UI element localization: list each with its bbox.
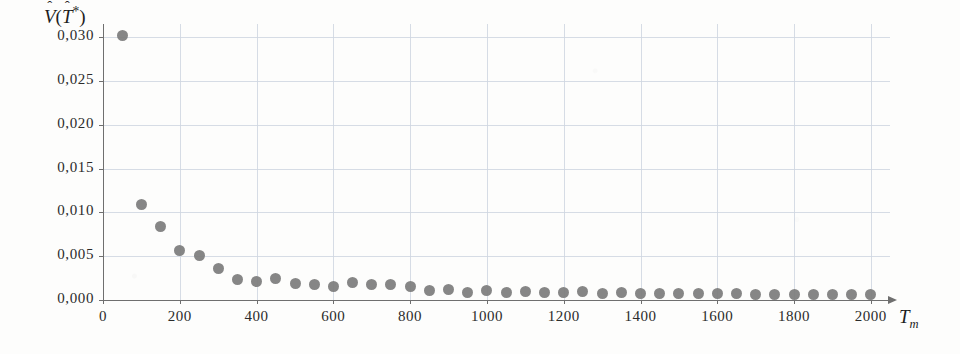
y-axis-tick-mark xyxy=(99,37,104,38)
x-axis-tick-mark xyxy=(180,300,181,304)
data-point xyxy=(481,285,492,296)
data-point xyxy=(501,287,512,298)
data-point xyxy=(827,289,838,300)
x-axis-tick-label: 1200 xyxy=(548,308,580,325)
data-point xyxy=(808,289,819,300)
x-axis-tick-label: 1400 xyxy=(625,308,657,325)
data-point xyxy=(846,289,857,300)
y-axis-tick-labels: 0,0000,0050,0100,0150,0200,0250,030 xyxy=(22,0,94,354)
x-axis-title-subscript: m xyxy=(910,317,919,331)
data-point xyxy=(539,287,550,298)
x-axis-line xyxy=(103,300,893,301)
x-axis-tick-label: 1000 xyxy=(471,308,503,325)
data-point xyxy=(347,277,358,288)
data-point xyxy=(731,288,742,299)
data-point xyxy=(558,287,569,298)
data-point xyxy=(424,285,435,296)
gridline-horizontal xyxy=(103,169,890,170)
gridline-vertical xyxy=(410,24,411,300)
gridline-vertical xyxy=(717,24,718,300)
gridline-vertical xyxy=(564,24,565,300)
gridline-vertical xyxy=(871,24,872,300)
x-axis-tick-mark xyxy=(641,300,642,304)
data-point xyxy=(712,288,723,299)
y-axis-tick-mark xyxy=(99,169,104,170)
plot-area xyxy=(103,24,890,300)
data-point xyxy=(366,279,377,290)
data-point xyxy=(194,250,205,261)
data-point xyxy=(865,289,876,300)
x-axis-tick-mark xyxy=(410,300,411,304)
y-axis-tick-label: 0,025 xyxy=(57,71,94,88)
x-axis-tick-mark xyxy=(871,300,872,304)
x-axis-tick-mark xyxy=(333,300,334,304)
x-axis-tick-mark xyxy=(487,300,488,304)
x-axis-arrow-icon xyxy=(888,296,897,304)
y-axis-tick-mark xyxy=(99,81,104,82)
data-point xyxy=(309,279,320,290)
data-point xyxy=(520,286,531,297)
gridline-horizontal xyxy=(103,37,890,38)
data-point xyxy=(635,288,646,299)
data-point xyxy=(577,286,588,297)
x-axis-tick-mark xyxy=(564,300,565,304)
gridline-vertical xyxy=(487,24,488,300)
data-point xyxy=(673,288,684,299)
data-point xyxy=(443,284,454,295)
x-axis-tick-mark xyxy=(257,300,258,304)
data-point xyxy=(750,289,761,300)
data-point xyxy=(136,199,147,210)
x-axis-tick-label: 800 xyxy=(398,308,422,325)
data-point xyxy=(597,288,608,299)
y-axis-tick-label: 0,030 xyxy=(57,27,94,44)
y-axis-tick-mark xyxy=(99,125,104,126)
y-axis-line xyxy=(103,24,104,301)
y-axis-tick-label: 0,020 xyxy=(57,115,94,132)
data-point xyxy=(693,288,704,299)
x-axis-tick-label: 1600 xyxy=(701,308,733,325)
gridline-vertical xyxy=(257,24,258,300)
data-point xyxy=(462,287,473,298)
x-axis-tick-mark xyxy=(794,300,795,304)
data-point xyxy=(251,276,262,287)
x-axis-tick-label: 2000 xyxy=(855,308,887,325)
y-axis-tick-label: 0,015 xyxy=(57,159,94,176)
data-point xyxy=(174,245,185,256)
data-point xyxy=(290,278,301,289)
data-point xyxy=(155,221,166,232)
gridline-vertical xyxy=(333,24,334,300)
data-point xyxy=(385,279,396,290)
y-axis-tick-label: 0,010 xyxy=(57,202,94,219)
gridline-horizontal xyxy=(103,81,890,82)
x-axis-tick-label: 200 xyxy=(168,308,192,325)
gridline-vertical xyxy=(794,24,795,300)
x-axis-tick-label: 0 xyxy=(99,308,107,325)
x-axis-tick-label: 1800 xyxy=(778,308,810,325)
x-axis-title: Tm xyxy=(899,306,919,332)
y-axis-tick-mark xyxy=(99,256,104,257)
x-axis-tick-mark xyxy=(103,300,104,304)
y-axis-tick-mark xyxy=(99,212,104,213)
x-axis-tick-mark xyxy=(717,300,718,304)
gridline-vertical xyxy=(641,24,642,300)
x-axis-tick-label: 400 xyxy=(245,308,269,325)
y-axis-tick-label: 0,000 xyxy=(57,290,94,307)
data-point xyxy=(789,289,800,300)
data-point xyxy=(232,274,243,285)
gridline-horizontal xyxy=(103,256,890,257)
data-point xyxy=(769,289,780,300)
data-point xyxy=(616,287,627,298)
data-point xyxy=(270,273,281,284)
x-axis-tick-label: 600 xyxy=(321,308,345,325)
data-point xyxy=(117,30,128,41)
gridline-horizontal xyxy=(103,125,890,126)
chart-figure: V̂(T̂*) Tm 0,0000,0050,0100,0150,0200,02… xyxy=(0,0,960,354)
data-point xyxy=(328,281,339,292)
data-point xyxy=(213,263,224,274)
gridline-vertical xyxy=(180,24,181,300)
data-point xyxy=(654,288,665,299)
gridline-horizontal xyxy=(103,212,890,213)
y-axis-tick-label: 0,005 xyxy=(57,246,94,263)
x-axis-title-t-symbol: T xyxy=(899,306,910,327)
data-point xyxy=(405,281,416,292)
